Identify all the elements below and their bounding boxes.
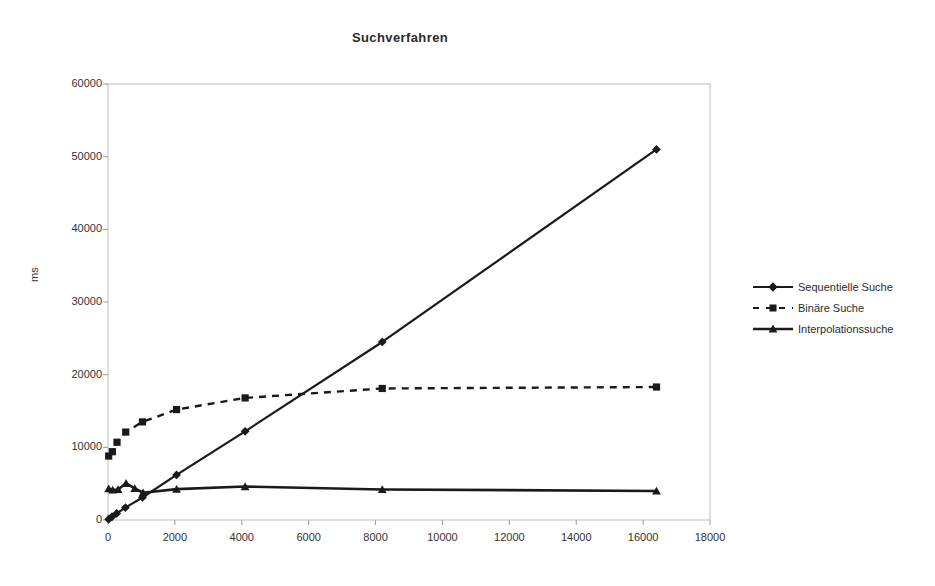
x-tick-label: 4000 (212, 532, 272, 543)
chart-container: Suchverfahren ms 60000500004000030000200… (0, 0, 935, 586)
x-tick-label: 16000 (613, 532, 673, 543)
y-tick-label: 20000 (44, 369, 102, 380)
y-tick-label: 10000 (44, 441, 102, 452)
x-tick-label: 14000 (546, 532, 606, 543)
diamond-marker-icon (752, 280, 794, 294)
series-interpolationssuche (104, 479, 661, 496)
series-binaere-suche (105, 383, 660, 459)
x-tick-label: 2000 (145, 532, 205, 543)
x-tick-label: 8000 (346, 532, 406, 543)
series-sequentielle-suche (104, 145, 661, 524)
y-tick-label: 50000 (44, 151, 102, 162)
x-tick-label: 12000 (479, 532, 539, 543)
legend-label: Interpolationssuche (798, 323, 893, 335)
triangle-marker-icon (752, 322, 794, 336)
legend-label: Sequentielle Suche (798, 281, 893, 293)
x-tick-label: 18000 (680, 532, 740, 543)
legend-item-binaere-suche: Binäre Suche (752, 297, 932, 318)
legend-item-interpolationssuche: Interpolationssuche (752, 318, 932, 339)
y-tick-label: 30000 (44, 296, 102, 307)
legend-label: Binäre Suche (798, 302, 864, 314)
y-tick-label: 40000 (44, 223, 102, 234)
data-series-layer (104, 145, 661, 524)
legend-item-sequentielle-suche: Sequentielle Suche (752, 276, 932, 297)
square-marker-icon (752, 301, 794, 315)
y-tick-label: 60000 (44, 78, 102, 89)
x-tick-label: 0 (78, 532, 138, 543)
axis-tick-marks (103, 84, 710, 525)
y-tick-label: 0 (44, 514, 102, 525)
chart-legend: Sequentielle Suche Binäre Suche Interpol… (752, 276, 932, 339)
x-tick-label: 6000 (279, 532, 339, 543)
plot-frame (108, 84, 710, 520)
x-tick-label: 10000 (412, 532, 472, 543)
